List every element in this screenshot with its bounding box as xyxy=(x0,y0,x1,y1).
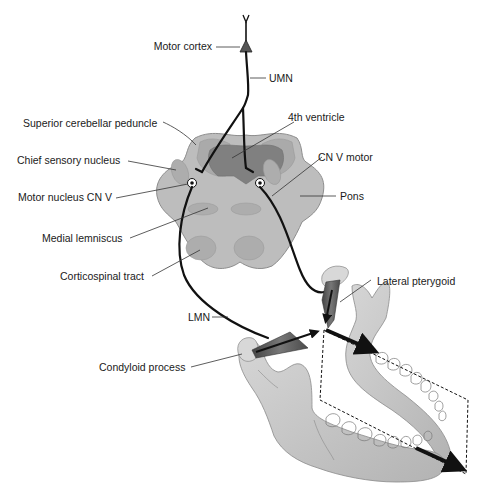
motor-cortex-neuron xyxy=(240,15,252,52)
label-motor-nucleus-cn-v: Motor nucleus CN V xyxy=(18,191,112,203)
umn-fiber xyxy=(243,52,248,108)
label-superior-cerebellar-peduncle: Superior cerebellar peduncle xyxy=(23,117,157,129)
trigeminal-pathway-diagram: Motor cortex UMN Superior cerebellar ped… xyxy=(0,0,482,492)
label-4th-ventricle: 4th ventricle xyxy=(288,111,345,123)
pyramidal-cell-body xyxy=(240,40,252,52)
medial-lemniscus-left xyxy=(188,203,218,215)
label-cn-v-motor: CN V motor xyxy=(318,151,373,163)
label-motor-cortex: Motor cortex xyxy=(154,40,213,52)
label-lateral-pterygoid: Lateral pterygoid xyxy=(377,275,455,287)
label-medial-lemniscus: Medial lemniscus xyxy=(42,232,123,244)
label-corticospinal-tract: Corticospinal tract xyxy=(60,270,144,282)
lateral-pterygoid-muscle-upper xyxy=(322,280,340,328)
label-chief-sensory-nucleus: Chief sensory nucleus xyxy=(17,154,120,166)
label-condyloid-process: Condyloid process xyxy=(99,361,185,373)
label-lmn: LMN xyxy=(188,311,210,323)
medial-lemniscus-right xyxy=(231,203,261,215)
label-pons: Pons xyxy=(340,190,364,202)
corticospinal-tract-left xyxy=(186,236,216,260)
corticospinal-tract-right xyxy=(234,236,264,260)
label-umn: UMN xyxy=(269,72,293,84)
